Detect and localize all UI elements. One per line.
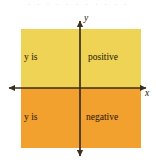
- top-bleed-text: · · · · · · · · · · ·: [0, 0, 156, 8]
- quadrant-label-upper-left: y is: [24, 52, 37, 62]
- upper-half-plane-fill: [21, 29, 141, 88]
- lower-half-plane-fill: [21, 88, 141, 148]
- y-axis-label: y: [84, 13, 88, 23]
- quadrant-label-lower-right: negative: [86, 112, 118, 122]
- x-axis-label: x: [145, 88, 149, 98]
- coordinate-plane-figure: · · · · · · · · · · · y is positive y is…: [0, 0, 156, 166]
- quadrant-label-upper-right: positive: [88, 52, 118, 62]
- quadrant-label-lower-left: y is: [24, 112, 37, 122]
- shaded-plane: [21, 29, 141, 148]
